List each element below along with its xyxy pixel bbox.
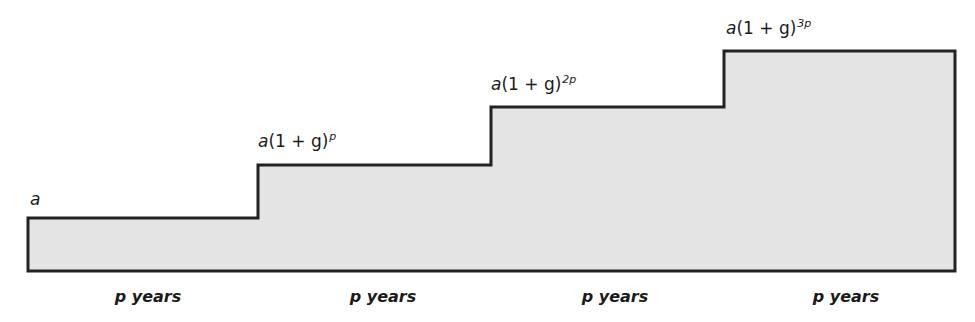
step-label-2-base: a (258, 131, 268, 151)
period-label-3-text: years (593, 287, 648, 306)
period-label-3: p years (582, 287, 649, 306)
step-growth-diagram: a a(1 + g)p a(1 + g)2p a(1 + g)3p p year… (0, 0, 975, 322)
period-label-1-p: p (115, 287, 126, 306)
step-label-4-base: a (726, 18, 736, 38)
step-label-4-paren: (1 + g) (736, 18, 796, 38)
step-label-3-exponent: 2p (562, 73, 576, 86)
step-label-3-base: a (491, 74, 501, 94)
step-label-1: a (30, 191, 40, 208)
period-label-2-text: years (361, 287, 416, 306)
period-label-3-p: p (582, 287, 593, 306)
period-label-1: p years (115, 287, 182, 306)
period-label-4: p years (813, 287, 880, 306)
step-label-4-exponent: 3p (797, 17, 811, 30)
step-shape (0, 0, 975, 322)
step-label-2-exponent: p (329, 130, 336, 143)
step-label-2-paren: (1 + g) (268, 131, 328, 151)
period-label-1-text: years (126, 287, 181, 306)
step-label-1-base: a (30, 189, 40, 209)
step-label-3: a(1 + g)2p (491, 76, 576, 93)
step-label-3-paren: (1 + g) (501, 74, 561, 94)
period-label-4-text: years (824, 287, 879, 306)
period-label-4-p: p (813, 287, 824, 306)
period-label-2: p years (350, 287, 417, 306)
step-label-2: a(1 + g)p (258, 133, 336, 150)
step-label-4: a(1 + g)3p (726, 20, 811, 37)
period-label-2-p: p (350, 287, 361, 306)
